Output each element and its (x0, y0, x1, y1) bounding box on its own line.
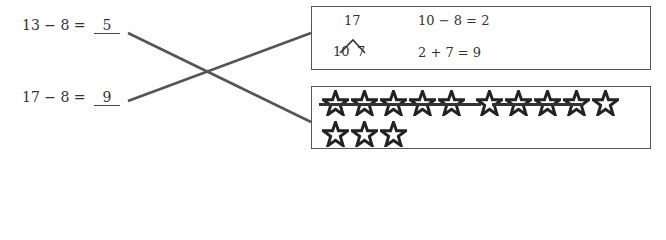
star-icon (322, 121, 349, 147)
strike-line (492, 103, 584, 106)
star-icon (380, 121, 407, 147)
star-icon (592, 90, 619, 116)
strike-line (319, 103, 481, 106)
star-icon (351, 121, 378, 147)
